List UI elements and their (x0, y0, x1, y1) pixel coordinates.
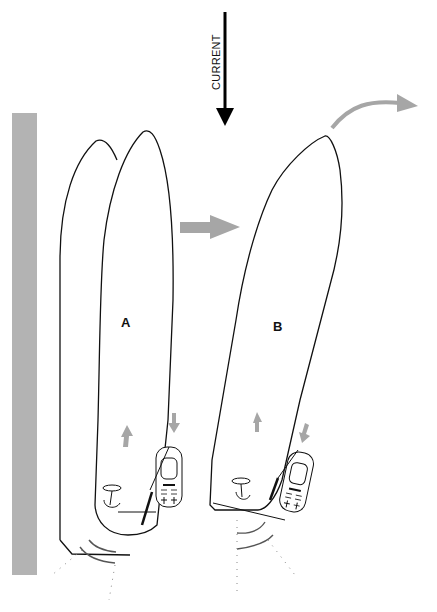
thruster-waves-b (237, 522, 273, 549)
quay-wall (12, 113, 37, 575)
thruster-waves-a (80, 540, 116, 563)
sound-dots-a (52, 550, 115, 600)
drift-down-arrow-a (168, 413, 180, 433)
boat-b-label: B (273, 319, 282, 334)
sound-dots-b (237, 520, 295, 592)
right-arrow-icon (180, 215, 240, 239)
boat-a-label: A (121, 315, 130, 330)
drift-down-arrow-b (299, 423, 310, 443)
curved-arrow-icon (332, 94, 418, 128)
boat-maneuver-diagram (0, 0, 437, 612)
current-label: CURRENT (210, 34, 222, 90)
